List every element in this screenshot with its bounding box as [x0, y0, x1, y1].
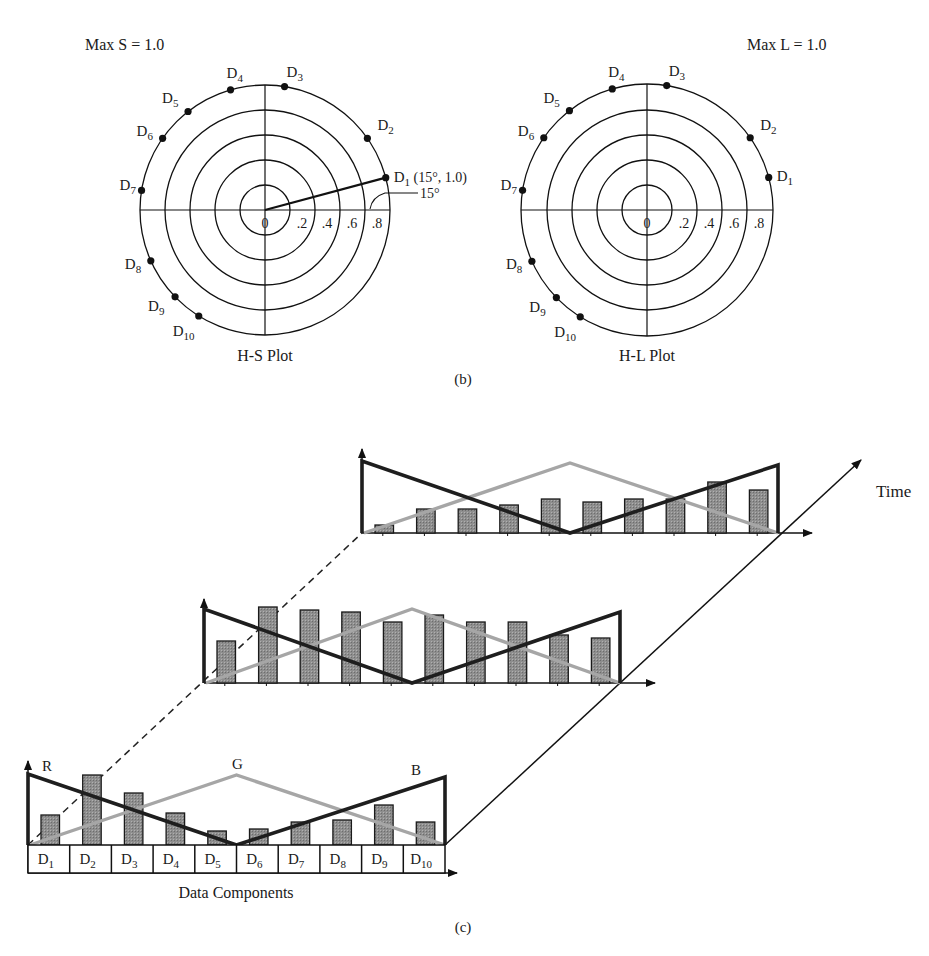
- data-point-marker: [171, 293, 178, 300]
- component-bar: [124, 793, 142, 845]
- data-point-marker: [147, 257, 154, 264]
- data-point-label: D7: [501, 177, 518, 196]
- data-point-marker: [138, 187, 145, 194]
- data-point-marker: [747, 134, 754, 141]
- data-point-marker: [540, 134, 547, 141]
- figure-canvas: 0.2.4.6.8H-S PlotMax S = 1.015°D1 (15°, …: [0, 0, 929, 956]
- data-point-marker: [577, 313, 584, 320]
- radial-tick-label: .2: [297, 216, 308, 231]
- g-series-label: G: [232, 756, 243, 772]
- data-point-label: D1: [777, 168, 793, 187]
- data-point-label: D1 (15°, 1.0): [394, 169, 468, 188]
- time-axis-dashed: [28, 533, 362, 845]
- radial-tick-label: 0: [644, 216, 651, 231]
- radial-tick-label: .2: [679, 216, 690, 231]
- component-bar: [83, 775, 102, 845]
- d1-radius-line: [265, 178, 386, 210]
- component-bar: [508, 622, 527, 683]
- component-bar: [458, 509, 477, 533]
- data-point-marker: [663, 82, 670, 89]
- component-bar: [166, 813, 185, 845]
- data-point-label: D9: [529, 299, 546, 318]
- data-point-marker: [184, 108, 191, 115]
- polar-plot-title: H-L Plot: [619, 347, 675, 364]
- data-point-marker: [382, 174, 389, 181]
- radial-tick-label: .4: [322, 216, 333, 231]
- angle-annotation: 15°: [420, 186, 440, 201]
- data-point-label: D4: [608, 64, 625, 83]
- slice-back: [362, 449, 812, 536]
- radial-tick-label: .6: [729, 216, 740, 231]
- component-bar: [333, 820, 352, 845]
- data-point-marker: [566, 107, 573, 114]
- radial-tick-label: .8: [372, 216, 383, 231]
- data-point-label: D10: [554, 324, 576, 343]
- max-value-label: Max L = 1.0: [747, 36, 827, 53]
- data-components-label: Data Components: [178, 884, 293, 902]
- polar-plot-title: H-S Plot: [237, 347, 293, 364]
- data-point-marker: [195, 312, 202, 319]
- data-point-label: D9: [148, 298, 165, 317]
- panel-b-polar-plots: 0.2.4.6.8H-S PlotMax S = 1.015°D1 (15°, …: [85, 36, 827, 388]
- data-point-marker: [553, 294, 560, 301]
- data-point-label: D7: [120, 177, 137, 196]
- data-point-marker: [227, 86, 234, 93]
- slice-front: D1D2D3D4D5D6D7D8D9D10RGB: [28, 756, 457, 873]
- angle-leader-line: [370, 193, 418, 209]
- component-bar: [666, 499, 685, 533]
- component-bar: [259, 607, 278, 683]
- data-point-marker: [519, 187, 526, 194]
- data-point-marker: [528, 258, 535, 265]
- data-point-label: D8: [125, 256, 142, 275]
- data-point-label: D8: [506, 256, 523, 275]
- radial-tick-label: .6: [347, 216, 358, 231]
- data-point-label: D10: [173, 323, 195, 342]
- max-value-label: Max S = 1.0: [85, 36, 164, 53]
- component-bar: [342, 612, 361, 683]
- data-point-marker: [765, 174, 772, 181]
- radial-tick-label: 0: [262, 216, 269, 231]
- data-point-marker: [609, 85, 616, 92]
- data-point-label: D3: [669, 63, 686, 82]
- hl-polar-plot: 0.2.4.6.8H-L PlotMax L = 1.0D1D2D3D4D5D6…: [501, 36, 827, 364]
- panel-b-caption: (b): [454, 371, 472, 388]
- b-series-label: B: [411, 762, 421, 778]
- panel-c-time-series: D1D2D3D4D5D6D7D8D9D10RGB Time Data Compo…: [28, 449, 911, 936]
- hs-polar-plot: 0.2.4.6.8H-S PlotMax S = 1.015°D1 (15°, …: [85, 36, 467, 364]
- data-point-label: D2: [377, 117, 393, 136]
- data-point-marker: [281, 83, 288, 90]
- data-point-label: D5: [162, 90, 179, 109]
- slice-middle: [204, 599, 655, 686]
- radial-tick-label: .8: [754, 216, 765, 231]
- data-point-label: D2: [760, 117, 776, 136]
- r-series-label: R: [42, 758, 52, 774]
- data-point-label: D3: [287, 64, 304, 83]
- data-point-label: D6: [518, 123, 535, 142]
- component-bar: [708, 482, 727, 533]
- data-point-label: D5: [543, 90, 560, 109]
- data-point-marker: [159, 135, 166, 142]
- time-axis-label: Time: [876, 482, 911, 501]
- data-point-label: D4: [227, 65, 244, 84]
- data-point-label: D6: [137, 123, 154, 142]
- panel-c-caption: (c): [455, 919, 472, 936]
- data-point-marker: [364, 135, 371, 142]
- radial-tick-label: .4: [704, 216, 715, 231]
